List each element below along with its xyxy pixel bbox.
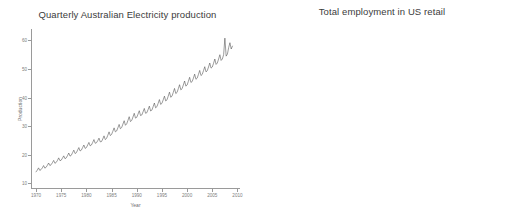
y-tick-mark: [28, 69, 31, 70]
y-tick-mark: [28, 40, 31, 41]
x-tick-label: 1975: [56, 193, 66, 198]
series-line-electricity: [31, 29, 240, 189]
y-tick-mark: [28, 126, 31, 127]
x-tick-mark: [36, 189, 37, 192]
y-tick-label: 10: [22, 181, 27, 186]
x-tick-label: 1995: [157, 193, 167, 198]
chart-title-electricity: Quarterly Australian Electricity product…: [0, 9, 255, 20]
y-tick-mark: [28, 183, 31, 184]
y-tick-label: 60: [22, 38, 27, 43]
x-axis-title-left: Year: [130, 202, 140, 208]
x-tick-mark: [61, 189, 62, 192]
x-tick-label: 2010: [232, 193, 242, 198]
x-tick-label: 1985: [106, 193, 116, 198]
y-tick-mark: [28, 155, 31, 156]
x-tick-mark: [137, 189, 138, 192]
chart-panel-electricity: Quarterly Australian Electricity product…: [0, 0, 255, 216]
x-tick-label: 2000: [182, 193, 192, 198]
figure-canvas: Quarterly Australian Electricity product…: [0, 0, 509, 216]
x-tick-label: 1980: [81, 193, 91, 198]
x-tick-mark: [162, 189, 163, 192]
y-axis-title-left: Production: [17, 97, 23, 121]
x-tick-label: 2005: [207, 193, 217, 198]
y-tick-label: 30: [22, 124, 27, 129]
chart-panel-retail: Total employment in US retail Unemployme…: [255, 0, 509, 216]
x-tick-label: 1990: [132, 193, 142, 198]
y-tick-label: 20: [22, 152, 27, 157]
x-tick-mark: [237, 189, 238, 192]
x-tick-mark: [212, 189, 213, 192]
y-tick-label: 40: [22, 95, 27, 100]
y-tick-mark: [28, 98, 31, 99]
x-tick-label: 1970: [31, 193, 41, 198]
x-tick-mark: [112, 189, 113, 192]
plot-area-electricity: Production Year 102030405060197019751980…: [31, 29, 240, 189]
y-tick-label: 50: [22, 67, 27, 72]
x-tick-mark: [187, 189, 188, 192]
x-tick-mark: [86, 189, 87, 192]
chart-title-retail: Total employment in US retail: [255, 6, 509, 17]
